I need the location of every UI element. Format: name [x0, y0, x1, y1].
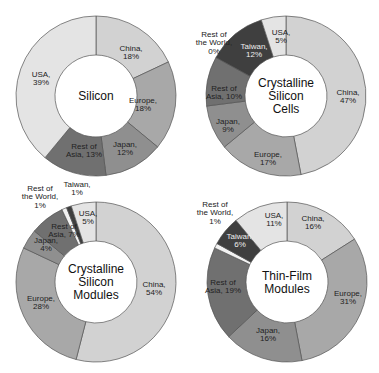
chart-center-title: Thin-FilmModules: [262, 269, 312, 296]
crystalline-silicon-cells-donut-chart: CrystallineSiliconCellsChina,47%Europe,1…: [196, 16, 366, 176]
label-rest-of-asia: Rest ofAsia, 19%: [205, 278, 241, 296]
chart-center-title: CrystallineSiliconCells: [258, 76, 314, 116]
label-usa: USA,39%: [32, 70, 51, 88]
label-rest-of-asia: Rest ofAsia, 10%: [206, 84, 242, 102]
thin-film-modules-donut-chart: Thin-FilmModulesChina,16%Europe,31%Japan…: [197, 200, 367, 363]
label-rest-of-asia: Rest ofAsia, 13%: [66, 142, 102, 160]
chart-center-title: Silicon: [78, 89, 113, 103]
label-usa: USA,11%: [265, 211, 284, 229]
label-rest-of-the-world: Rest ofthe World,1%: [22, 184, 58, 210]
label-taiwan: Taiwan,1%: [63, 180, 90, 198]
chart-center-title: CrystallineSiliconModules: [68, 262, 124, 302]
silicon-donut-chart: SiliconChina,18%Europe,18%Japan,12%Rest …: [16, 16, 176, 176]
crystalline-silicon-modules-donut-chart: CrystallineSiliconModulesChina,54%Europe…: [16, 180, 176, 362]
label-rest-of-asia: Rest ofAsia, 7%: [48, 222, 80, 240]
donut-charts-figure: SiliconChina,18%Europe,18%Japan,12%Rest …: [0, 0, 379, 373]
slice-europe: [295, 239, 367, 360]
label-rest-of-the-world: Rest ofthe World,1%: [197, 200, 233, 226]
